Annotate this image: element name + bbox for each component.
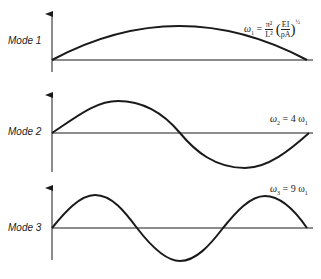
mode-shapes-diagram [0,0,321,279]
mode-2-label: Mode 2 [8,126,41,137]
ei-over-rho-a: EI ρA [281,20,291,39]
mode-2-equation: ω2 = 4 ω1 [270,113,308,126]
mode-3-plot [52,188,313,261]
mode-1-label: Mode 1 [8,35,41,46]
mode-2-curve [52,101,309,168]
mode-3-label: Mode 3 [8,222,41,233]
mode-1-equation: ω1 = π² L² ( EI ρA )½ [244,19,300,39]
mode-2-plot [52,95,313,172]
pi-squared-over-l-squared: π² L² [265,20,273,39]
mode-3-equation: ω3 = 9 ω1 [270,183,308,196]
omega-symbol: ω [244,23,251,34]
